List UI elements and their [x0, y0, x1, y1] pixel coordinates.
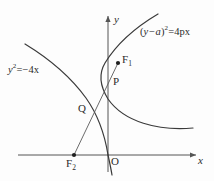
point-q-label: Q [78, 103, 86, 114]
x-axis-arrowhead [190, 152, 196, 157]
focus-1-subscript: 1 [128, 59, 132, 68]
focus-2-subscript: 2 [72, 163, 76, 172]
x-axis-label: x [198, 155, 203, 166]
point-f2-dot [72, 153, 76, 157]
parabola-figure: y x O y2=−4x (y−a)2=4px F1 F2 P Q [0, 0, 214, 181]
equation-right-rest: =4px [168, 26, 190, 37]
equation-left-rest: =−4x [16, 64, 39, 75]
equation-right-lead: y−a [144, 26, 161, 37]
focus-2-label: F2 [66, 158, 76, 172]
point-f1-dot [116, 61, 120, 65]
point-p-label: P [113, 76, 119, 87]
origin-label: O [111, 156, 119, 167]
curves-group [25, 14, 193, 175]
equation-left-parabola: y2=−4x [8, 63, 39, 75]
y-axis-label: y [114, 14, 119, 25]
curve-left-parabola [25, 44, 108, 155]
y-axis-arrowhead [105, 16, 110, 22]
focus-1-label: F1 [122, 54, 132, 68]
equation-right-parabola: (y−a)2=4px [140, 25, 190, 37]
